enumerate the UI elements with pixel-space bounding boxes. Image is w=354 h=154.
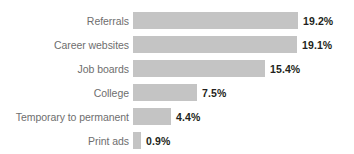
- bar-print-ads: [133, 132, 141, 149]
- bar-career-websites: [133, 36, 297, 53]
- bar-referrals: [133, 12, 298, 29]
- bar-college: [133, 84, 197, 101]
- chart-row: Referrals 19.2%: [0, 9, 354, 32]
- category-label-print-ads: Print ads: [0, 135, 133, 147]
- value-label-referrals: 19.2%: [298, 15, 333, 27]
- chart-row: Print ads 0.9%: [0, 129, 354, 152]
- category-label-referrals: Referrals: [0, 15, 133, 27]
- chart-row: Job boards 15.4%: [0, 57, 354, 80]
- value-label-print-ads: 0.9%: [141, 135, 170, 147]
- bar-chart: Referrals 19.2% Career websites 19.1% Jo…: [0, 0, 354, 154]
- category-label-college: College: [0, 87, 133, 99]
- category-label-career-websites: Career websites: [0, 39, 133, 51]
- value-label-career-websites: 19.1%: [297, 39, 332, 51]
- bar-area: 4.4%: [133, 105, 354, 128]
- category-label-job-boards: Job boards: [0, 63, 133, 75]
- bar-area: 15.4%: [133, 57, 354, 80]
- value-label-temporary-to-permanent: 4.4%: [171, 111, 200, 123]
- bar-area: 7.5%: [133, 81, 354, 104]
- bar-area: 19.2%: [133, 9, 354, 32]
- value-label-college: 7.5%: [197, 87, 226, 99]
- chart-row: Temporary to permanent 4.4%: [0, 105, 354, 128]
- bar-temporary-to-permanent: [133, 108, 171, 125]
- category-label-temporary-to-permanent: Temporary to permanent: [0, 111, 133, 123]
- bar-area: 0.9%: [133, 129, 354, 152]
- chart-row: Career websites 19.1%: [0, 33, 354, 56]
- chart-row: College 7.5%: [0, 81, 354, 104]
- value-label-job-boards: 15.4%: [265, 63, 300, 75]
- bar-job-boards: [133, 60, 265, 77]
- bar-area: 19.1%: [133, 33, 354, 56]
